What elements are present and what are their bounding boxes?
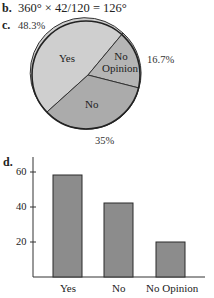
x-label-no-opinion: No Opinion (146, 282, 198, 294)
slice-label-no-opinion-1: No (111, 50, 131, 62)
slice-label-no-opinion-2: Opinion (102, 62, 138, 74)
slice-label-yes: Yes (59, 52, 75, 64)
bar-yes (53, 175, 82, 277)
x-label-yes: Yes (60, 282, 76, 294)
y-tick-label-60: 60 (16, 166, 27, 177)
x-label-no: No (112, 282, 125, 294)
slice-label-no: No (85, 98, 98, 110)
y-tick-label-20: 20 (16, 236, 27, 247)
y-tick-label-40: 40 (16, 201, 27, 212)
bar-chart (0, 150, 214, 298)
bar-no (104, 203, 133, 277)
bar-no-opinion (156, 242, 185, 277)
pie-chart (0, 0, 214, 150)
